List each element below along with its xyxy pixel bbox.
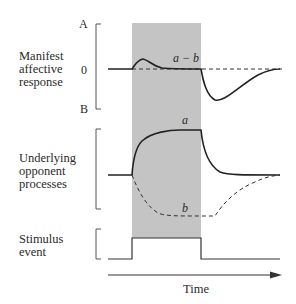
- bracket-middle: [96, 129, 101, 209]
- label-a-minus-b: a − b: [173, 51, 199, 65]
- label-b: b: [182, 201, 188, 215]
- arrowhead-icon: [270, 272, 282, 279]
- x-axis-label: Time: [183, 283, 209, 296]
- bracket-top: [96, 24, 101, 109]
- label-a: a: [182, 113, 188, 127]
- opponent-process-diagram: a − b a b: [0, 0, 296, 304]
- bracket-bottom: [96, 229, 101, 259]
- stimulus-step-line: [108, 238, 280, 259]
